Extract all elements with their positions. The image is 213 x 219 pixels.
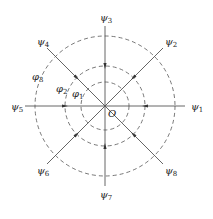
diagram-canvas: ψ1ψ2ψ3ψ4ψ5ψ6ψ7ψ8φ1φ2φ3 O: [0, 0, 213, 219]
label-psi3: ψ3: [100, 12, 112, 25]
label-psi1: ψ1: [191, 101, 203, 114]
label-phi1: φ1: [72, 88, 83, 101]
label-psi7: ψ7: [100, 189, 112, 202]
label-psi5: ψ5: [11, 101, 23, 114]
label-psi8: ψ8: [165, 165, 177, 178]
center-label-O: O: [108, 108, 116, 119]
label-psi4: ψ4: [37, 36, 50, 49]
label-phi3: φ3: [32, 71, 43, 84]
rays: [25, 26, 185, 186]
label-psi2: ψ2: [165, 36, 177, 49]
labels: ψ1ψ2ψ3ψ4ψ5ψ6ψ7ψ8φ1φ2φ3: [11, 12, 203, 202]
label-phi2: φ2: [56, 83, 67, 96]
label-psi6: ψ6: [37, 165, 50, 178]
